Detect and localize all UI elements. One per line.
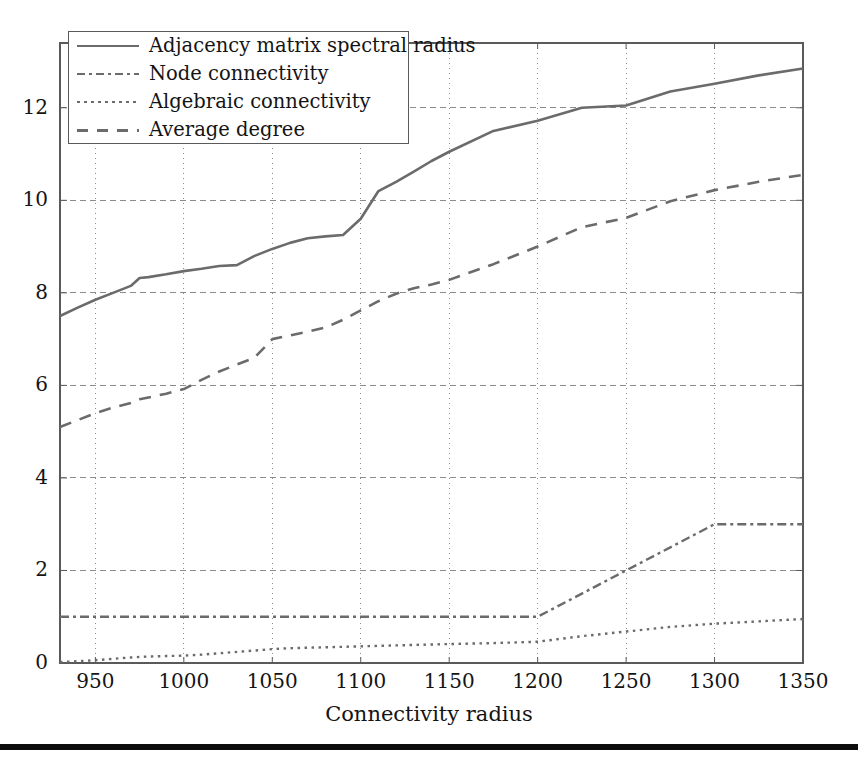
y-tick-label: 2 [0, 557, 48, 581]
data-series [60, 68, 803, 662]
legend-item-label: Average degree [149, 120, 305, 140]
line-dashdot-icon [77, 67, 139, 81]
x-tick-label: 1100 [321, 669, 401, 693]
x-axis-title: Connectivity radius [0, 702, 858, 726]
legend-item: Node connectivity [69, 60, 408, 88]
y-tick-label: 0 [0, 650, 48, 674]
legend-item: Average degree [69, 116, 408, 144]
y-tick-label: 10 [0, 187, 48, 211]
y-tick-label: 12 [0, 95, 48, 119]
series-line [60, 175, 803, 427]
chart-legend: Adjacency matrix spectral radius Node co… [68, 31, 409, 144]
line-solid-icon [77, 39, 139, 53]
x-tick-label: 1150 [409, 669, 489, 693]
legend-item-label: Adjacency matrix spectral radius [149, 36, 476, 56]
x-tick-label: 1200 [498, 669, 578, 693]
legend-item: Algebraic connectivity [69, 88, 408, 116]
y-tick-label: 6 [0, 372, 48, 396]
figure-container: 9501000105011001150120012501300135002468… [0, 0, 858, 765]
x-tick-label: 1300 [675, 669, 755, 693]
legend-item-label: Algebraic connectivity [149, 92, 371, 112]
y-tick-label: 4 [0, 465, 48, 489]
page-rule [0, 744, 858, 750]
x-tick-label: 1350 [763, 669, 843, 693]
y-tick-label: 8 [0, 280, 48, 304]
x-tick-label: 1250 [586, 669, 666, 693]
line-dotted-icon [77, 95, 139, 109]
line-dashed-icon [77, 123, 139, 137]
legend-item: Adjacency matrix spectral radius [69, 32, 408, 60]
x-tick-label: 1000 [144, 669, 224, 693]
series-line [60, 619, 803, 662]
x-tick-label: 1050 [232, 669, 312, 693]
legend-item-label: Node connectivity [149, 64, 328, 84]
x-tick-label: 950 [55, 669, 135, 693]
